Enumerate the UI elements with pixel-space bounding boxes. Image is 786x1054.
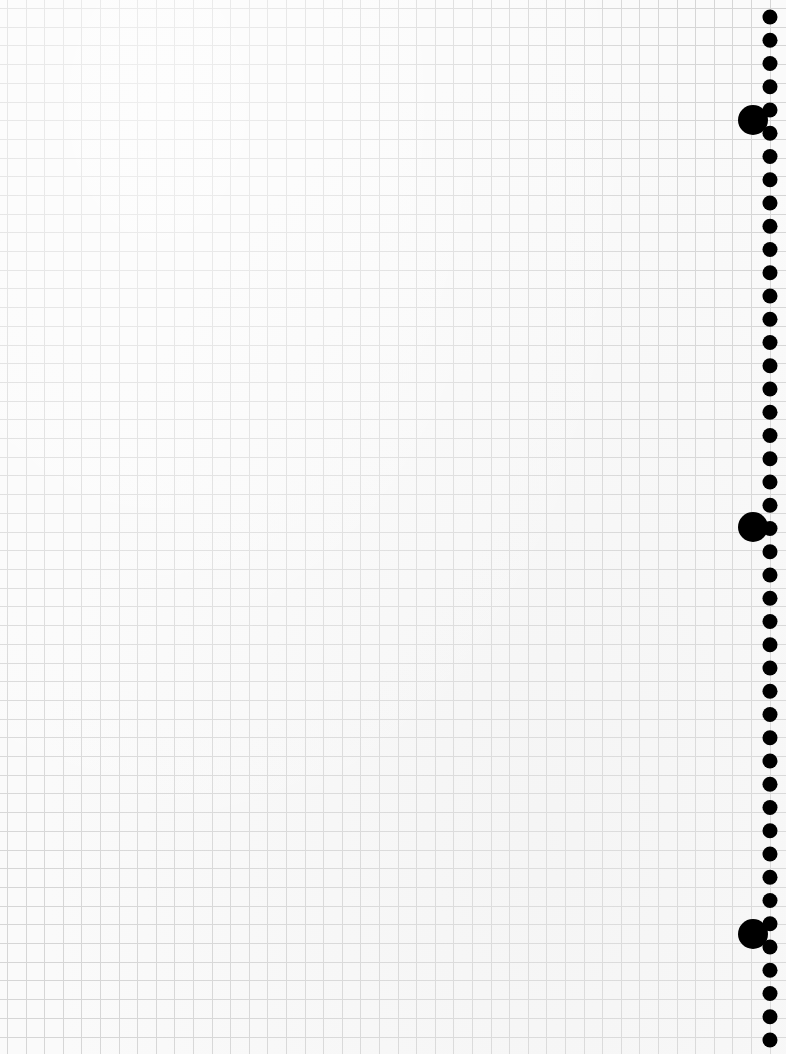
perforation-hole xyxy=(763,172,778,187)
perforation-hole xyxy=(763,777,778,792)
perforation-hole xyxy=(763,614,778,629)
perforation-hole xyxy=(763,428,778,443)
perforation-hole xyxy=(763,730,778,745)
perforation-hole xyxy=(763,196,778,211)
perforation-hole xyxy=(763,707,778,722)
perforation-hole xyxy=(763,358,778,373)
binder-perforation xyxy=(0,0,786,1054)
perforation-hole xyxy=(763,521,778,536)
perforation-hole xyxy=(763,405,778,420)
perforation-hole xyxy=(763,79,778,94)
perforation-hole xyxy=(763,242,778,257)
perforation-hole xyxy=(763,498,778,513)
perforation-hole xyxy=(763,893,778,908)
perforation-hole xyxy=(763,986,778,1001)
perforation-hole xyxy=(763,10,778,25)
perforation-hole xyxy=(763,963,778,978)
perforation-hole xyxy=(763,800,778,815)
perforation-hole xyxy=(763,265,778,280)
perforation-hole xyxy=(763,451,778,466)
perforation-hole xyxy=(763,56,778,71)
perforation-hole xyxy=(763,684,778,699)
perforation-hole xyxy=(763,1009,778,1024)
perforation-hole xyxy=(763,847,778,862)
perforation-hole xyxy=(763,544,778,559)
perforation-hole xyxy=(763,637,778,652)
perforation-hole xyxy=(763,475,778,490)
perforation-hole xyxy=(763,126,778,141)
perforation-hole xyxy=(763,870,778,885)
perforation-hole xyxy=(763,382,778,397)
perforation-hole xyxy=(763,754,778,769)
perforation-hole xyxy=(763,219,778,234)
perforation-hole xyxy=(763,940,778,955)
perforation-hole xyxy=(763,312,778,327)
perforation-hole xyxy=(763,823,778,838)
perforation-hole xyxy=(763,591,778,606)
perforation-hole xyxy=(763,916,778,931)
perforation-hole xyxy=(763,103,778,118)
perforation-hole xyxy=(763,1033,778,1048)
graph-paper-sheet xyxy=(0,0,786,1054)
perforation-hole xyxy=(763,661,778,676)
perforation-hole xyxy=(763,149,778,164)
perforation-hole xyxy=(763,33,778,48)
perforation-hole xyxy=(763,335,778,350)
perforation-hole xyxy=(763,568,778,583)
perforation-hole xyxy=(763,289,778,304)
